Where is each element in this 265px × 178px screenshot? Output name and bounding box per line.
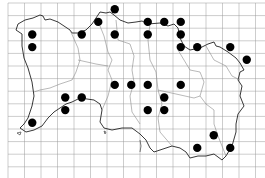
record-dot	[28, 43, 36, 51]
record-dot	[144, 30, 152, 38]
record-dot	[193, 43, 201, 51]
parish-boundary	[116, 20, 140, 124]
record-dot	[160, 93, 168, 101]
record-dot	[193, 144, 201, 152]
parish-boundary	[206, 46, 240, 80]
record-dot	[61, 93, 69, 101]
record-dot	[94, 18, 102, 26]
record-dot	[160, 18, 168, 26]
record-dot	[177, 43, 185, 51]
record-dot	[111, 81, 119, 89]
record-dot	[61, 106, 69, 114]
record-dot	[144, 81, 152, 89]
record-dot	[177, 81, 185, 89]
parish-boundary	[78, 60, 108, 66]
record-dot	[28, 30, 36, 38]
record-dot	[160, 106, 168, 114]
record-dot	[144, 18, 152, 26]
islet	[104, 131, 106, 134]
record-dot	[78, 93, 86, 101]
record-dot	[226, 43, 234, 51]
grid-lines	[8, 3, 265, 178]
record-dot	[111, 5, 119, 13]
distribution-map	[0, 0, 265, 178]
record-dot	[243, 56, 251, 64]
record-dot	[127, 81, 135, 89]
record-dot	[78, 30, 86, 38]
record-dot	[210, 131, 218, 139]
parish-boundaries	[34, 20, 240, 156]
parish-boundary	[100, 26, 112, 110]
record-dot	[226, 144, 234, 152]
record-dot	[28, 119, 36, 127]
record-dot	[177, 18, 185, 26]
record-dot	[177, 30, 185, 38]
islet	[17, 132, 21, 135]
record-dot	[111, 30, 119, 38]
record-dot	[144, 106, 152, 114]
